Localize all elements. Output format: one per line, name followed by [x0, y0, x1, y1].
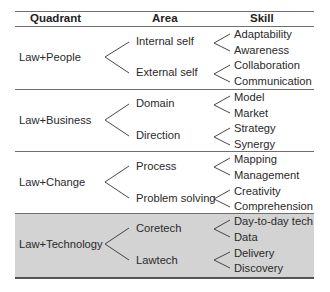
skill-label: Synergy [234, 138, 275, 151]
skill-label: Communication [234, 75, 312, 88]
area-label: Process [136, 160, 176, 173]
area-label: Problem solving [136, 192, 216, 205]
area-label: Lawtech [136, 254, 178, 267]
row-divider [15, 213, 314, 214]
area-label: Internal self [136, 35, 194, 48]
area-label: Direction [136, 129, 180, 142]
area-label: External self [136, 66, 198, 79]
header-rule [15, 26, 314, 27]
skill-label: Discovery [234, 262, 283, 275]
quadrant-label: Law+Change [19, 176, 85, 189]
skill-label: Creativity [234, 185, 281, 198]
area-label: Coretech [136, 222, 181, 235]
skill-label: Delivery [234, 247, 274, 260]
row-divider [15, 151, 314, 152]
skill-label: Adaptability [234, 28, 292, 41]
skill-label: Market [234, 107, 268, 120]
skill-label: Awareness [234, 44, 289, 57]
area-label: Domain [136, 97, 175, 110]
header-skill: Skill [250, 12, 274, 25]
header-quadrant: Quadrant [30, 12, 81, 25]
skill-label: Day-to-day tech [234, 215, 313, 228]
header-area: Area [152, 12, 178, 25]
skill-label: Mapping [234, 153, 277, 166]
skill-label: Strategy [234, 122, 276, 135]
skill-label: Comprehension [234, 200, 313, 213]
skill-label: Collaboration [234, 59, 300, 72]
quadrant-label: Law+Technology [19, 238, 103, 251]
quadrant-label: Law+People [19, 51, 81, 64]
quadrant-label: Law+Business [19, 114, 91, 127]
skill-label: Model [234, 91, 264, 104]
row-divider [15, 89, 314, 90]
bottom-rule [15, 277, 314, 279]
skill-label: Data [234, 231, 258, 244]
skill-label: Management [234, 169, 299, 182]
